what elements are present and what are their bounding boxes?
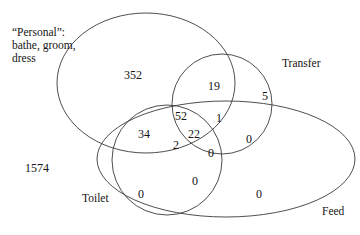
venn-diagram-page: “Personal”: bathe, groom, dress Transfer… bbox=[0, 0, 360, 235]
region-feed-only-lower: 0 bbox=[256, 188, 262, 200]
toilet-set-label: Toilet bbox=[82, 192, 109, 204]
transfer-set-label: Transfer bbox=[282, 57, 321, 69]
region-toilet-only: 0 bbox=[138, 188, 144, 200]
region-personal-toilet-lower: 2 bbox=[173, 139, 179, 151]
region-transfer-only: 5 bbox=[262, 90, 268, 102]
region-personal-toilet: 52 bbox=[175, 110, 187, 122]
region-toilet-feed-left: 34 bbox=[138, 128, 150, 140]
region-transfer-toilet-feed: 0 bbox=[208, 147, 214, 159]
region-all-four: 22 bbox=[188, 128, 200, 140]
transfer-circle bbox=[172, 54, 272, 154]
region-feed-only-upper: 0 bbox=[246, 133, 252, 145]
personal-set-label-line3: dress bbox=[12, 52, 36, 65]
outside-count: 1574 bbox=[25, 162, 49, 174]
personal-set-label-line1: “Personal”: bbox=[12, 26, 65, 39]
region-transfer-personal: 19 bbox=[208, 80, 220, 92]
region-personal-only: 352 bbox=[124, 69, 142, 81]
region-toilet-mid: 0 bbox=[192, 175, 198, 187]
feed-ellipse bbox=[97, 101, 355, 217]
personal-set-label-line2: bathe, groom, bbox=[12, 39, 76, 52]
feed-set-label: Feed bbox=[322, 205, 344, 217]
region-transfer-feed: 1 bbox=[216, 112, 222, 124]
